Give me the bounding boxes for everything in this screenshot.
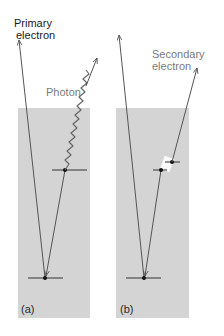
photon-label: Photon — [46, 86, 81, 98]
atom-dot-bottom-a — [43, 276, 47, 280]
primary-electron-label-line2: electron — [16, 29, 55, 41]
secondary-electron-label-line1: Secondary — [152, 48, 205, 60]
atom-dot-mid-b — [159, 168, 163, 172]
panel-b-label: (b) — [120, 303, 133, 315]
specimen-panel-a — [18, 108, 90, 318]
atom-dot-bottom-b — [142, 276, 146, 280]
secondary-electron-label-line2: electron — [152, 60, 191, 72]
primary-electron-label-line1: Primary — [14, 17, 52, 29]
panel-a-label: (a) — [21, 303, 34, 315]
